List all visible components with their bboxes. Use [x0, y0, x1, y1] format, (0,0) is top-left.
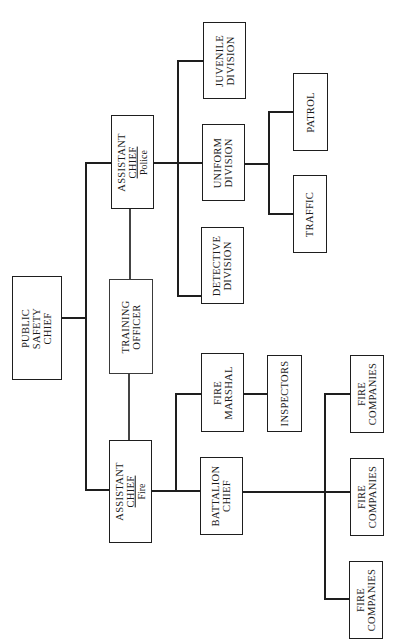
battalion-chief-label: BATTALION CHIEF: [211, 466, 233, 527]
juvenile-division-box: JUVENILE DIVISION: [203, 22, 246, 99]
inspectors-label: INSPECTORS: [279, 361, 290, 427]
connector-battalion-companies: [242, 491, 351, 493]
detective-division-label: DETECTIVE DIVISION: [212, 235, 234, 295]
connector-trunk-police: [85, 162, 112, 164]
fire-companies-box-3: FIRE COMPANIES: [349, 561, 383, 639]
connector-juvenile: [177, 60, 204, 62]
connector-patrol: [268, 111, 294, 113]
connector-company-3: [324, 598, 351, 600]
uniform-division-box: UNIFORM DIVISION: [202, 124, 245, 201]
connector-marshal-inspectors: [243, 393, 268, 395]
public-safety-chief-label: PUBLIC SAFETY CHIEF: [20, 307, 53, 348]
training-officer-label: TRAINING OFFICER: [120, 300, 142, 353]
assistant-chief-police-label: ASSISTANT CHIEF Police: [116, 133, 149, 191]
patrol-box: PATROL: [293, 73, 328, 151]
fire-companies-box-1: FIRE COMPANIES: [350, 355, 384, 433]
juvenile-division-label: JUVENILE DIVISION: [214, 35, 236, 87]
public-safety-chief-box: PUBLIC SAFETY CHIEF: [12, 276, 62, 380]
fire-marshal-box: FIRE MARSHAL: [201, 353, 244, 432]
connector-trunk-fire: [85, 489, 110, 491]
connector-root-trunk: [61, 317, 87, 319]
fire-companies-label: FIRE COMPANIES: [356, 363, 378, 425]
traffic-box: TRAFFIC: [293, 175, 327, 253]
training-officer-box: TRAINING OFFICER: [109, 279, 153, 374]
fire-companies-label: FIRE COMPANIES: [355, 569, 377, 631]
connector-trunk: [85, 162, 87, 491]
patrol-label: PATROL: [305, 92, 316, 133]
assistant-chief-police-box: ASSISTANT CHIEF Police: [111, 115, 154, 209]
connector-fire-units-bus: [175, 393, 177, 491]
connector-detective: [177, 295, 202, 297]
assistant-chief-fire-label: ASSISTANT CHIEF Fire: [114, 462, 147, 520]
fire-companies-box-2: FIRE COMPANIES: [350, 458, 384, 536]
assistant-chief-fire-box: ASSISTANT CHIEF Fire: [109, 440, 152, 543]
connector-training-fire: [128, 373, 130, 441]
battalion-chief-box: BATTALION CHIEF: [200, 457, 243, 535]
connector-police-divisions-bus: [177, 60, 179, 297]
connector-fire-marshal: [175, 393, 202, 395]
connector-uniform-units-bus: [268, 111, 270, 215]
traffic-label: TRAFFIC: [305, 191, 316, 236]
connector-uniform-bus: [244, 163, 269, 165]
detective-division-box: DETECTIVE DIVISION: [201, 227, 244, 304]
connector-company-1: [324, 393, 351, 395]
fire-marshal-label: FIRE MARSHAL: [212, 366, 234, 419]
fire-companies-label: FIRE COMPANIES: [356, 466, 378, 528]
connector-companies-bus: [324, 393, 326, 600]
inspectors-box: INSPECTORS: [267, 355, 302, 432]
connector-traffic: [268, 213, 294, 215]
org-chart: PUBLIC SAFETY CHIEF ASSISTANT CHIEF Poli…: [0, 0, 396, 643]
uniform-division-label: UNIFORM DIVISION: [213, 137, 235, 188]
connector-police-training: [129, 207, 131, 280]
